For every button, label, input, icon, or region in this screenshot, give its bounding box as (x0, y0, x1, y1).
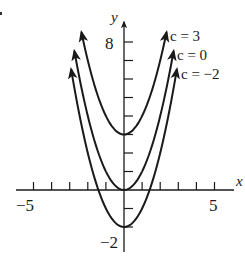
parabola-family-chart: y x 8 −2 −5 5 c = 3 c = 0 c = −2 (0, 0, 245, 259)
y-tick-label-8: 8 (105, 34, 114, 53)
x-axis-label: x (235, 173, 243, 189)
x-tick-label-5: 5 (209, 196, 218, 215)
x-tick-label-neg5: −5 (16, 196, 34, 215)
y-tick-label-neg2: −2 (100, 233, 118, 252)
series-label-cm2: c = −2 (181, 66, 220, 82)
speck (0, 12, 2, 15)
y-axis-label: y (109, 9, 118, 25)
series-label-c0: c = 0 (177, 47, 207, 63)
series-label-c3: c = 3 (170, 28, 200, 44)
